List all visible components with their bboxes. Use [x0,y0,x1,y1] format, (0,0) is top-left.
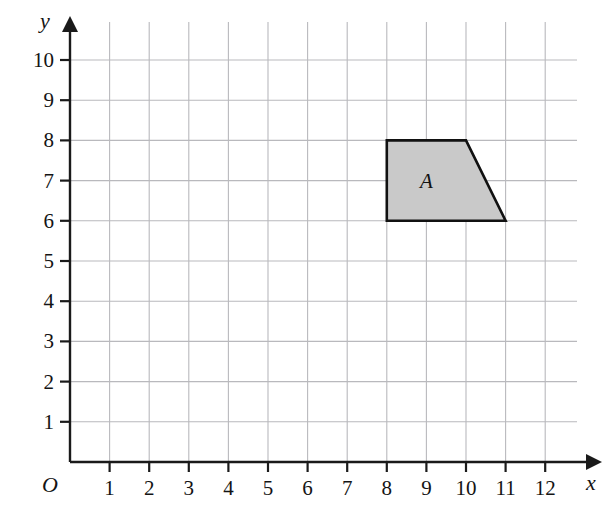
coordinate-grid-figure: 123456789101112 12345678910 A O x y [0,0,611,529]
origin-label: O [42,474,58,496]
y-axis-tick-label: 3 [44,331,55,352]
x-axis-name: x [586,472,596,494]
y-axis-arrowhead [62,16,78,32]
x-axis-tick-label: 1 [104,478,115,499]
axis-tick-marks [60,60,545,472]
x-axis-tick-label: 11 [495,478,515,499]
x-axis-arrowhead [586,454,602,470]
y-axis-tick-label: 6 [44,210,55,231]
x-axis-tick-label: 5 [263,478,274,499]
x-axis-tick-label: 8 [382,478,393,499]
x-axis-tick-label: 7 [342,478,353,499]
y-axis-tick-label: 5 [44,251,55,272]
x-axis-tick-label: 6 [302,478,313,499]
y-axis-tick-label: 9 [44,90,55,111]
y-axis-tick-label: 2 [44,371,55,392]
y-axis-name: y [40,10,50,32]
shape-label-a: A [420,170,433,191]
x-axis-tick-label: 2 [144,478,155,499]
y-axis-tick-label: 7 [44,170,55,191]
grid-lines [70,22,577,462]
x-axis-tick-label: 10 [456,478,477,499]
x-axis-tick-label: 3 [184,478,195,499]
y-axis-tick-label: 10 [33,50,54,71]
x-axis-tick-label: 12 [535,478,556,499]
y-axis-tick-label: 1 [44,411,55,432]
y-axis-tick-label: 4 [44,291,55,312]
axis-lines [62,16,602,470]
x-axis-tick-label: 4 [223,478,234,499]
x-axis-tick-label: 9 [421,478,432,499]
y-axis-tick-label: 8 [44,130,55,151]
plot-area [0,0,611,529]
